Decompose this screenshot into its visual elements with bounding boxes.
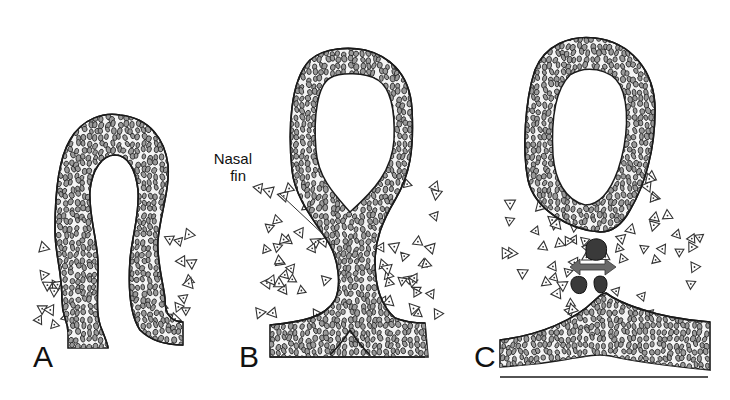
epithelial-cell	[397, 107, 402, 114]
apoptotic-cell-right	[594, 276, 607, 293]
epithelial-cell	[674, 323, 679, 329]
epithelial-cell	[135, 341, 141, 348]
mesenchymal-cell	[547, 261, 556, 271]
epithelial-cell	[510, 34, 518, 42]
epithelial-cell	[281, 49, 287, 56]
epithelial-cell	[661, 56, 667, 63]
epithelial-cell	[512, 206, 516, 213]
epithelial-cell	[541, 363, 546, 370]
epithelial-cell	[177, 160, 183, 167]
epithelial-cell	[116, 303, 123, 310]
mesenchymal-nucleus	[505, 252, 507, 254]
epithelial-cell	[167, 296, 171, 302]
epithelial-cell	[554, 29, 560, 36]
epithelial-cell	[493, 271, 499, 278]
epithelial-cell	[403, 141, 407, 148]
epithelial-cell	[517, 155, 522, 161]
epithelial-cell	[409, 342, 413, 348]
epithelial-cell	[536, 304, 541, 310]
epithelial-cell	[675, 109, 680, 116]
epithelial-cell	[667, 263, 674, 270]
epithelial-cell	[613, 271, 619, 278]
epithelial-cell	[523, 181, 529, 188]
epithelial-cell	[51, 264, 56, 271]
epithelial-cell	[711, 289, 717, 297]
epithelial-cell	[511, 121, 516, 128]
epithelial-cell	[674, 69, 679, 75]
epithelial-cell	[265, 264, 271, 271]
epithelial-cell	[702, 179, 708, 186]
epithelial-cell	[523, 83, 527, 90]
epithelial-cell	[530, 239, 536, 246]
mesenchymal-nucleus	[539, 206, 541, 208]
epithelial-cell	[302, 303, 308, 310]
epithelial-cell	[709, 217, 716, 224]
epithelial-cell	[687, 219, 692, 226]
epithelial-cell	[50, 134, 57, 141]
epithelial-cell	[501, 205, 507, 211]
epithelial-cell	[428, 148, 432, 154]
epithelial-cell	[116, 334, 122, 341]
epithelial-cell	[390, 55, 396, 62]
epithelial-cell	[631, 357, 636, 363]
epithelial-cell	[176, 109, 180, 116]
epithelial-cell	[668, 268, 675, 276]
epithelial-cell	[129, 200, 134, 206]
epithelial-cell	[619, 290, 624, 296]
epithelial-cell	[121, 186, 127, 194]
epithelial-cell	[637, 272, 642, 278]
epithelial-cell	[607, 244, 613, 252]
epithelial-cell	[684, 102, 690, 110]
epithelial-cell	[535, 269, 540, 276]
epithelial-cell	[668, 140, 675, 148]
epithelial-cell	[655, 375, 662, 383]
epithelial-cell	[411, 252, 418, 260]
epithelial-cell	[270, 70, 275, 77]
epithelial-cell	[656, 36, 662, 43]
epithelial-cell	[377, 62, 382, 68]
epithelial-cell	[703, 297, 709, 304]
epithelial-cell	[281, 141, 286, 147]
nasal-fin-label-line1: Nasal	[200, 150, 252, 167]
epithelial-cell	[649, 296, 655, 304]
epithelial-cell	[505, 96, 510, 102]
mesenchymal-nucleus	[545, 281, 547, 283]
epithelial-cell	[597, 221, 601, 227]
epithelial-cell	[674, 199, 680, 206]
epithelial-cell	[565, 205, 570, 212]
epithelial-cell	[275, 159, 282, 166]
epithelial-cell	[698, 148, 704, 154]
epithelial-cell	[674, 369, 680, 376]
epithelial-cell	[673, 161, 679, 168]
mesenchymal-nucleus	[278, 260, 280, 262]
epithelial-cell	[602, 336, 606, 342]
epithelial-cell	[402, 270, 406, 276]
mesenchymal-nucleus	[401, 280, 403, 282]
epithelial-cell	[388, 223, 395, 231]
epithelial-cell	[121, 166, 127, 173]
epithelial-cell	[136, 142, 140, 148]
epithelial-cell	[379, 283, 384, 289]
epithelial-cell	[676, 102, 680, 108]
epithelial-cell	[621, 264, 627, 271]
epithelial-cell	[703, 100, 709, 108]
epithelial-cell	[425, 315, 431, 323]
epithelial-cell	[669, 179, 674, 186]
epithelial-cell	[661, 276, 667, 284]
epithelial-cell	[518, 76, 523, 82]
epithelial-cell	[421, 89, 426, 97]
epithelial-cell	[181, 159, 188, 166]
epithelial-cell	[642, 192, 649, 199]
epithelial-cell	[263, 94, 269, 101]
epithelial-cell	[556, 62, 560, 69]
epithelial-cell	[547, 285, 551, 291]
epithelial-cell	[637, 285, 642, 293]
epithelial-cell	[122, 315, 127, 322]
epithelial-cell	[403, 217, 409, 224]
epithelial-cell	[644, 94, 649, 101]
epithelial-cell	[651, 283, 656, 290]
epithelial-cell	[171, 198, 179, 206]
epithelial-cell	[631, 217, 638, 224]
epithelial-cell	[668, 191, 674, 198]
epithelial-cell	[161, 181, 165, 188]
